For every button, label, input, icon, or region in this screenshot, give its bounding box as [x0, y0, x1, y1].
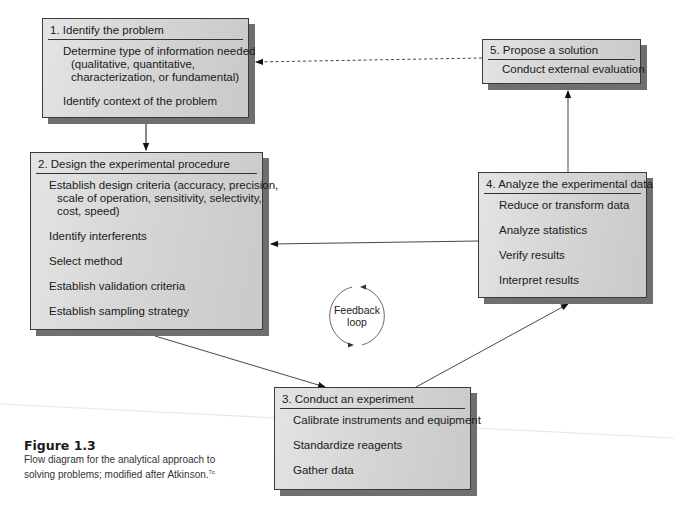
arrow-3-to-4 [416, 304, 568, 387]
step-4-title: 4. Analyze the experimental data [484, 173, 641, 194]
step-1-item: Identify context of the problem [63, 95, 248, 108]
step-2-item: Identify interferents [49, 230, 262, 243]
step-5-propose-solution-box: 5. Propose a solution Conduct external e… [482, 39, 641, 84]
step-2-items: Establish design criteria (accuracy, pre… [31, 174, 262, 318]
step-3-item: Calibrate instruments and equipment [293, 414, 470, 427]
step-3-item: Gather data [293, 464, 470, 477]
item-text-cont: scale of operation, sensitivity, selecti… [49, 192, 262, 205]
step-2-design-procedure-box: 2. Design the experimental procedure Est… [30, 152, 263, 330]
arrow-5-to-1-dashed [256, 58, 482, 62]
step-4-analyze-data-box: 4. Analyze the experimental data Reduce … [478, 172, 647, 298]
step-2-item: Establish design criteria (accuracy, pre… [49, 179, 262, 218]
step-2-title: 2. Design the experimental procedure [36, 153, 257, 174]
step-1-items: Determine type of information needed (qu… [43, 40, 248, 108]
arrow-2-to-3 [155, 336, 325, 387]
step-4-items: Reduce or transform data Analyze statist… [479, 194, 646, 287]
step-2-item: Select method [49, 255, 262, 268]
step-1-title: 1. Identify the problem [48, 19, 243, 40]
caption-reference: 7c [209, 469, 215, 475]
caption-body: Flow diagram for the analytical approach… [24, 454, 215, 480]
step-5-title: 5. Propose a solution [488, 40, 635, 60]
step-4-item: Analyze statistics [499, 224, 646, 237]
step-3-conduct-experiment-box: 3. Conduct an experiment Calibrate instr… [274, 387, 471, 490]
step-1-identify-problem-box: 1. Identify the problem Determine type o… [42, 18, 249, 118]
step-4-item: Interpret results [499, 274, 646, 287]
step-2-item: Establish sampling strategy [49, 305, 262, 318]
feedback-line2: loop [334, 316, 380, 328]
figure-caption: Figure 1.3 Flow diagram for the analytic… [24, 438, 244, 481]
item-text-cont: characterization, or fundamental) [63, 71, 248, 84]
step-4-item: Reduce or transform data [499, 199, 646, 212]
step-1-item: Determine type of information needed (qu… [63, 45, 248, 84]
item-text: Determine type of information needed [63, 45, 255, 57]
step-4-item: Verify results [499, 249, 646, 262]
figure-caption-text: Flow diagram for the analytical approach… [24, 454, 244, 481]
item-text-cont: (qualitative, quantitative, [63, 58, 248, 71]
feedback-line1: Feedback [334, 304, 380, 316]
step-2-item: Establish validation criteria [49, 280, 262, 293]
item-text: Establish design criteria (accuracy, pre… [49, 179, 278, 191]
step-3-item: Standardize reagents [293, 439, 470, 452]
step-3-items: Calibrate instruments and equipment Stan… [275, 409, 470, 477]
step-3-title: 3. Conduct an experiment [280, 388, 465, 409]
arrow-4-to-2 [271, 241, 478, 244]
item-text-cont: cost, speed) [49, 205, 262, 218]
figure-number: Figure 1.3 [24, 438, 244, 453]
feedback-loop-label: Feedback loop [327, 286, 387, 346]
step-5-items: Conduct external evaluation [483, 60, 640, 76]
step-5-item: Conduct external evaluation [502, 63, 640, 76]
